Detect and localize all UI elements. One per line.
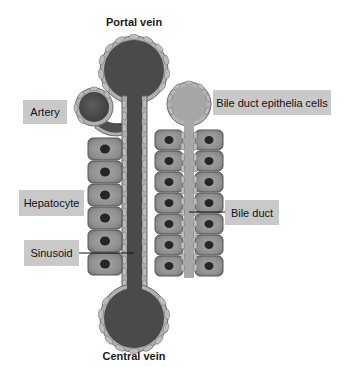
sinusoid-label: Sinusoid (24, 240, 79, 266)
bile-duct-label: Bile duct (225, 200, 279, 225)
artery-label: Artery (23, 100, 67, 124)
portal-vein-title: Portal vein (100, 16, 168, 28)
hepatocyte-label: Hepatocyte (19, 190, 84, 216)
hepatocyte-column-left (88, 138, 122, 275)
bile-duct-epithelia-label: Bile duct epithelia cells (213, 90, 331, 115)
central-vein-title: Central vein (96, 350, 172, 362)
sinusoid-channel (122, 92, 147, 312)
liver-lobule-diagram (0, 0, 345, 367)
